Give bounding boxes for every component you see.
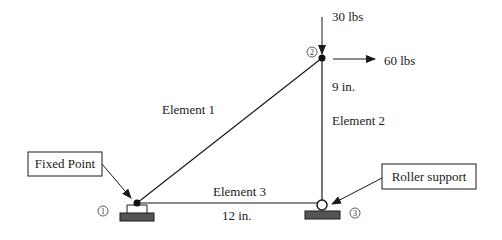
truss-diagram: 1 2 3 30 lbs 60 lbs Element 1 Element 2 … (0, 0, 502, 240)
svg-text:2: 2 (310, 48, 314, 57)
vertical-dimension-label: 9 in. (332, 79, 355, 94)
svg-text:Fixed Point: Fixed Point (35, 156, 96, 171)
svg-text:Roller support: Roller support (392, 169, 467, 184)
fixed-support-icon (120, 205, 154, 221)
element-1-line (137, 58, 322, 203)
element-2-label: Element 2 (332, 113, 385, 128)
node-1 (134, 200, 141, 207)
svg-text:1: 1 (101, 207, 105, 216)
vertical-load-label: 30 lbs (332, 9, 363, 24)
node-2-number: 2 (307, 47, 317, 57)
horizontal-dimension-label: 12 in. (222, 208, 252, 223)
horizontal-load-label: 60 lbs (384, 53, 415, 68)
node-2 (319, 55, 326, 62)
roller-support-callout: Roller support (332, 164, 476, 204)
fixed-point-callout: Fixed Point (28, 152, 131, 198)
svg-text:3: 3 (353, 209, 357, 218)
element-1-label: Element 1 (162, 102, 215, 117)
node-3-number: 3 (350, 208, 360, 218)
element-3-label: Element 3 (213, 184, 266, 199)
node-1-number: 1 (98, 206, 108, 216)
